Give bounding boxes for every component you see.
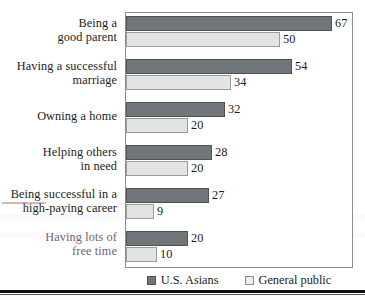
category-label-line: good parent [0,31,117,45]
category-label-line: Being successful in a [0,188,117,202]
grouped-bar-chart: Being a good parent Having a successful … [0,0,365,302]
category-label-having-lots-of-free-time: Having lots of free time [0,231,117,258]
bar-value-label: 10 [160,247,172,262]
legend-label-us-asians: U.S. Asians [161,273,219,287]
legend-label-general-public: General public [259,273,332,287]
category-label-line: in need [0,160,117,174]
category-label-line: Helping others [0,146,117,160]
category-label-having-a-successful-marriage: Having a successful marriage [0,60,117,87]
bar-asians-owning-a-home [126,102,225,117]
bar-value-label: 27 [212,188,224,203]
category-label-helping-others-in-need: Helping others in need [0,146,117,173]
bar-value-label: 50 [283,32,295,47]
bar-value-label: 20 [191,161,203,176]
category-label-line: Having a successful [0,60,117,74]
bar-asians-being-a-good-parent [126,16,332,31]
bar-public-being-a-good-parent [126,32,280,47]
bar-asians-having-lots-of-free-time [126,231,188,246]
bar-value-label: 67 [335,16,347,31]
bar-public-owning-a-home [126,118,188,133]
scan-artifact-mark [2,202,46,204]
bottom-divider-rule [0,290,365,293]
bar-value-label: 20 [191,231,203,246]
bar-asians-having-a-successful-marriage [126,59,292,74]
bar-asians-being-successful-high-paying-career [126,188,209,203]
category-label-line: Having lots of [0,231,117,245]
bar-public-having-lots-of-free-time [126,247,157,262]
bar-value-label: 54 [295,59,307,74]
category-label-owning-a-home: Owning a home [0,110,117,124]
bar-value-label: 28 [215,145,227,160]
category-label-line: marriage [0,74,117,88]
bar-value-label: 34 [234,75,246,90]
bottom-divider-rule-thin [0,294,365,295]
chart-legend: U.S. Asians General public [125,272,353,288]
legend-item-general-public: General public [245,273,332,287]
legend-swatch-icon-general-public [245,276,254,285]
bar-value-label: 20 [191,118,203,133]
legend-swatch-icon-us-asians [147,276,156,285]
category-label-line: free time [0,245,117,259]
bar-asians-helping-others-in-need [126,145,212,160]
plot-area: 67 50 54 34 32 20 28 20 27 9 20 10 [125,12,353,268]
category-label-column: Being a good parent Having a successful … [0,12,121,268]
bar-public-helping-others-in-need [126,161,188,176]
bar-public-having-a-successful-marriage [126,75,231,90]
category-label-being-a-good-parent: Being a good parent [0,17,117,44]
bar-public-being-successful-high-paying-career [126,204,154,219]
bar-value-label: 9 [157,204,163,219]
legend-item-us-asians: U.S. Asians [147,273,219,287]
bar-value-label: 32 [228,102,240,117]
category-label-line: Being a [0,17,117,31]
category-label-line: Owning a home [0,110,117,124]
